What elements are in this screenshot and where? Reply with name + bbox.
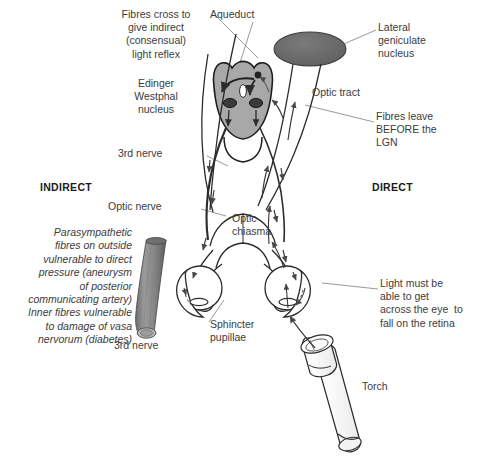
label-sphincter-pupillae: Sphincter pupillae [210,318,290,344]
label-third-nerve-top: 3rd nerve [118,147,206,160]
lateral-geniculate-nucleus [274,32,346,66]
arrow-down-to-left-eye [203,238,206,250]
edinger-westphal-nucleus-right [249,98,262,107]
leader-optic-nerve [201,209,226,216]
leader-aqueduct [239,22,253,66]
label-fibres-cross-consensual: Fibres cross to give indirect (consensua… [96,8,216,61]
label-optic-nerve: Optic nerve [108,200,200,213]
chiasma-lower-arc [216,243,270,268]
figure-canvas: Fibres cross to give indirect (consensua… [0,0,486,456]
label-direct: DIRECT [372,181,452,194]
label-light-across-eye-retina: Light must be able to get across the eye… [380,277,480,330]
arrow-fibres-leave-before-lgn [272,100,283,118]
label-third-nerve-bottom: 3rd nerve [114,339,174,352]
right-eye [265,266,310,317]
third-nerve-cylinder [136,238,167,339]
arrow-up-right-nerve [272,242,284,268]
label-aqueduct: Aqueduct [210,8,300,21]
arrow-down-3rd-left [212,190,214,204]
third-nerve-top-face [146,238,166,245]
leader-light-must [322,283,378,289]
arrow-up-tract-lateral [288,102,295,140]
left-eye [177,266,222,317]
leader-fibres-cross [216,16,258,58]
leader-fibres-leave [305,105,374,122]
left-sphincter-pupillae [190,298,208,305]
arrow-down-3rd-right [281,168,283,180]
label-fibres-leave-before-lgn: Fibres leave BEFORE the LGN [376,110,480,150]
cerebral-aqueduct [240,85,247,98]
midbrain-structure [213,61,272,162]
label-lateral-geniculate-nucleus: Lateral geniculate nucleus [378,21,478,61]
label-parasympathetic-note: Parasympathetic fibres on outside vulner… [6,226,132,347]
torch [290,316,363,453]
arrow-down-3rd-left-upper [209,160,210,172]
label-edinger-westphal-nucleus: Edinger Westphal nucleus [100,77,212,117]
brainstem-taper [224,137,262,162]
label-torch: Torch [362,380,412,393]
label-optic-tract: Optic tract [312,86,402,99]
label-optic-chiasma: Optic chiasma [232,212,296,238]
arrow-down-to-right-eye [283,250,286,262]
label-indirect: INDIRECT [40,181,130,194]
edinger-westphal-nucleus-left [223,98,236,107]
third-nerve-inner-fibres [141,330,153,336]
